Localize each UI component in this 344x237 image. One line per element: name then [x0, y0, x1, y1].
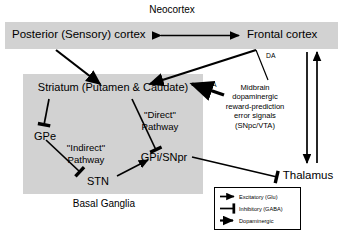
indirect-pathway-label: "Indirect" Pathway	[67, 142, 105, 165]
node-stn: STN	[87, 176, 109, 187]
midbrain-line-4: error signals	[226, 111, 285, 120]
neocortex-label: Neocortex	[149, 5, 195, 15]
direct-pathway-line-1: "Direct"	[142, 109, 179, 121]
node-gpe: GPe	[34, 131, 56, 142]
da-label-striatum: DA	[207, 82, 216, 89]
edge-frontal-cortex-to-striatum	[150, 50, 256, 84]
edge-posterior-cortex-to-striatum	[56, 50, 100, 84]
legend-box: Excitatory (Glu) Inhibitory (GABA) Dopam…	[214, 187, 301, 230]
node-thalamus: Thalamus	[283, 170, 334, 182]
direct-pathway-line-2: Pathway	[142, 121, 179, 133]
basal-ganglia-label: Basal Ganglia	[73, 199, 135, 209]
edge-gpi-to-thalamus-inhibitory	[192, 157, 277, 177]
midbrain-line-2: dopaminergic	[226, 92, 285, 101]
edge-striatum-to-gpe-inhibitory	[44, 99, 49, 125]
node-midbrain-dopaminergic-block: Midbrain dopaminergic reward-prediction …	[226, 83, 285, 130]
indirect-pathway-line-1: "Indirect"	[67, 142, 105, 154]
node-frontal-cortex: Frontal cortex	[247, 29, 317, 41]
legend-label-inhibitory: Inhibitory (GABA)	[239, 206, 283, 212]
midbrain-line-1: Midbrain	[226, 83, 285, 92]
legend-label-excitatory: Excitatory (Glu)	[239, 194, 278, 200]
midbrain-line-3: reward-prediction	[226, 102, 285, 111]
indirect-pathway-line-2: Pathway	[67, 154, 105, 166]
node-striatum: Striatum (Putamen & Caudate)	[38, 82, 188, 93]
midbrain-line-5: (SNpc/VTA)	[226, 121, 285, 130]
node-gpi-snpr: GPi/SNpr	[141, 152, 187, 163]
legend-label-dopaminergic: Dopaminergic	[239, 218, 274, 224]
basal-ganglia-circuit-diagram: Neocortex Posterior (Sensory) cortex Fro…	[0, 0, 344, 237]
da-label-frontal-cortex: DA	[266, 53, 275, 60]
direct-pathway-label: "Direct" Pathway	[142, 109, 179, 132]
node-posterior-cortex: Posterior (Sensory) cortex	[12, 29, 146, 41]
